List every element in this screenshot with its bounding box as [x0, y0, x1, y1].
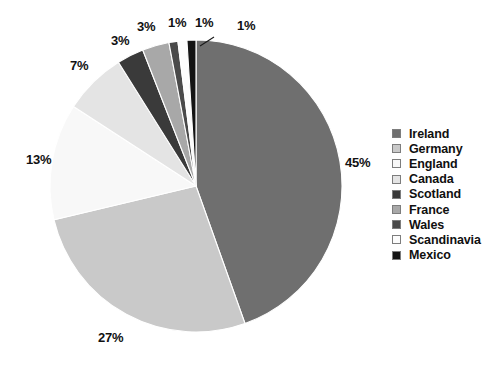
legend-item-mexico[interactable]: Mexico: [392, 248, 498, 263]
legend-item-label: Scotland: [409, 187, 461, 201]
legend-swatch-icon: [392, 144, 401, 153]
legend-item-canada[interactable]: Canada: [392, 172, 498, 187]
pct-label-canada: 7%: [70, 58, 88, 73]
legend-item-wales[interactable]: Wales: [392, 217, 498, 232]
legend: IrelandGermanyEnglandCanadaScotlandFranc…: [392, 126, 498, 263]
legend-item-label: Scandinavia: [409, 233, 481, 247]
pie-chart: 45% 27% 13% 7% 3% 3% 1% 1% 1% IrelandGer…: [0, 0, 500, 365]
legend-swatch-icon: [392, 251, 401, 260]
legend-item-germany[interactable]: Germany: [392, 141, 498, 156]
pct-label-scotland: 3%: [111, 33, 129, 48]
legend-item-label: Mexico: [409, 248, 451, 262]
legend-item-label: Germany: [409, 142, 463, 156]
legend-item-label: Ireland: [409, 127, 449, 141]
legend-item-scandinavia[interactable]: Scandinavia: [392, 232, 498, 247]
legend-swatch-icon: [392, 220, 401, 229]
legend-item-scotland[interactable]: Scotland: [392, 187, 498, 202]
legend-item-label: Wales: [409, 218, 444, 232]
pct-label-ireland: 45%: [345, 155, 370, 170]
legend-swatch-icon: [392, 175, 401, 184]
pct-label-england: 13%: [26, 152, 51, 167]
pct-label-mexico: 1%: [237, 18, 255, 33]
legend-item-label: England: [409, 157, 458, 171]
legend-item-ireland[interactable]: Ireland: [392, 126, 498, 141]
pct-label-wales: 1%: [168, 15, 186, 30]
pie-slices: [50, 40, 342, 332]
legend-item-label: France: [409, 203, 449, 217]
pct-label-france: 3%: [137, 19, 155, 34]
legend-item-label: Canada: [409, 172, 454, 186]
legend-item-france[interactable]: France: [392, 202, 498, 217]
legend-item-england[interactable]: England: [392, 156, 498, 171]
pct-label-scandinavia: 1%: [195, 15, 213, 30]
legend-swatch-icon: [392, 235, 401, 244]
legend-swatch-icon: [392, 205, 401, 214]
pct-label-germany: 27%: [98, 330, 123, 345]
legend-swatch-icon: [392, 129, 401, 138]
legend-swatch-icon: [392, 190, 401, 199]
legend-swatch-icon: [392, 159, 401, 168]
